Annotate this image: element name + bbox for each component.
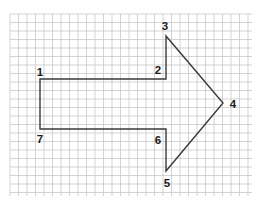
vertex-label-6: 6 — [155, 134, 161, 146]
vertex-label-7: 7 — [37, 133, 43, 145]
vertex-label-5: 5 — [164, 177, 171, 189]
vertex-label-2: 2 — [155, 64, 161, 76]
vertex-label-4: 4 — [230, 98, 237, 110]
vertex-label-1: 1 — [37, 66, 44, 78]
grid-paper — [10, 14, 252, 196]
block-arrow-diagram: 1 2 3 4 5 6 7 — [0, 0, 265, 200]
vertex-labels: 1 2 3 4 5 6 7 — [37, 20, 237, 189]
vertex-label-3: 3 — [162, 20, 168, 32]
